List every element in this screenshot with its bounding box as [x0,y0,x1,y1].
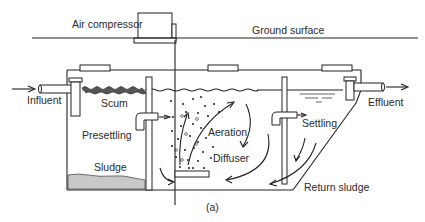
manhole-cover-3 [322,65,352,71]
aeration-label: Aeration [208,126,247,138]
air-bubbles-open [175,115,199,162]
scum-label: Scum [101,97,128,109]
extended-aeration-tank-diagram: Air compressor Ground surface Influent S… [0,0,425,222]
sludge-label: Sludge [94,161,127,173]
return-sludge-arrow [270,143,316,184]
manhole-cover-1 [80,65,110,71]
sludge-layer [68,174,145,189]
ground-surface-label: Ground surface [252,24,325,36]
settling-label: Settling [302,117,337,129]
manhole-cover-2 [208,65,238,71]
presettling-label: Presettling [82,129,132,141]
return-sludge-label: Return sludge [304,181,370,193]
settling-water-marks [300,94,335,102]
presettling-partition [146,77,152,190]
effluent-label: Effluent [368,96,403,108]
aeration-upflow-arrow-1 [180,115,187,165]
figure-caption: (a) [206,201,219,213]
scum-layer [82,87,146,95]
settling-down-arrow [296,138,305,160]
circulation-arrow-down [243,104,250,146]
settling-partition [282,77,287,184]
influent-label: Influent [27,94,62,106]
presettling-bottom-arrow [160,168,173,182]
diffuser-bar [175,171,209,177]
diffuser-label: Diffuser [213,152,249,164]
air-compressor-label: Air compressor [72,18,143,30]
water-surface [148,89,343,91]
